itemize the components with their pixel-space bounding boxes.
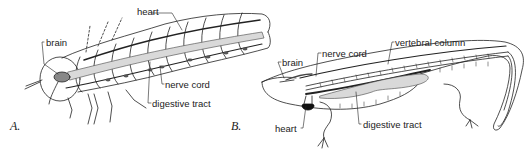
insect-larva-drawing [25, 13, 270, 124]
figure-canvas: heart brain nerve cord digestive tract A… [0, 0, 531, 156]
panel-letter-b: B. [231, 120, 241, 132]
label-a-digestive-tract: digestive tract [152, 99, 211, 109]
label-b-vertebral-column: vertebral column [395, 38, 465, 48]
label-b-brain: brain [282, 58, 303, 68]
label-a-brain: brain [46, 38, 67, 48]
label-a-nerve-cord: nerve cord [165, 80, 210, 90]
label-a-heart: heart [137, 7, 159, 17]
label-b-heart: heart [275, 124, 297, 134]
panel-letter-a: A. [10, 120, 20, 132]
anatomy-illustration [0, 0, 531, 156]
label-b-digestive-tract: digestive tract [363, 120, 422, 130]
label-b-nerve-cord: nerve cord [322, 49, 367, 59]
